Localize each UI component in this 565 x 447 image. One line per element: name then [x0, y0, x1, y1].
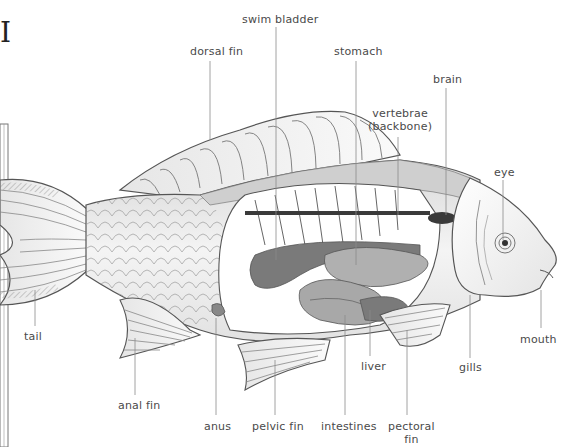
label-mouth: mouth — [520, 333, 557, 346]
label-tail: tail — [24, 330, 42, 343]
eye-pupil — [502, 240, 508, 246]
label-swim-bladder: swim bladder — [242, 13, 318, 26]
label-anal-fin: anal fin — [118, 399, 161, 412]
tail-fin — [0, 179, 88, 305]
fish-anatomy-diagram: I — [0, 0, 565, 447]
label-gills: gills — [459, 361, 482, 374]
label-vertebrae: vertebrae (backbone) — [368, 107, 432, 133]
page-frame — [0, 124, 8, 447]
label-intestines: intestines — [321, 420, 377, 433]
fish-head — [452, 178, 556, 296]
label-pectoral-fin: pectoral fin — [388, 420, 435, 446]
label-dorsal-fin: dorsal fin — [190, 45, 243, 58]
label-liver: liver — [361, 360, 386, 373]
label-pelvic-fin: pelvic fin — [252, 420, 304, 433]
label-stomach: stomach — [334, 45, 383, 58]
brain-organ — [428, 212, 456, 224]
pelvic-fin-shape — [238, 338, 330, 390]
label-anus: anus — [204, 420, 231, 433]
fish-illustration — [0, 0, 565, 447]
label-eye: eye — [494, 166, 515, 179]
label-brain: brain — [433, 73, 462, 86]
